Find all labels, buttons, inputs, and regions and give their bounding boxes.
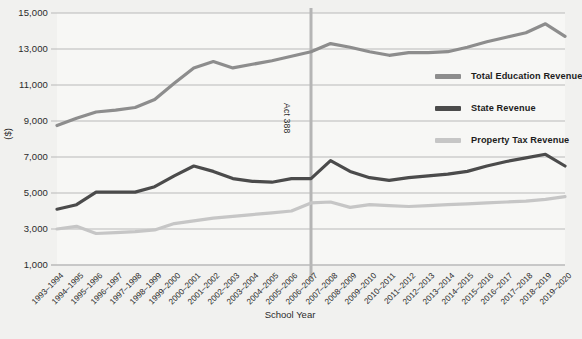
- y-axis-tick-label: 7,000: [2, 151, 48, 162]
- legend-label-property-tax-revenue: Property Tax Revenue: [471, 135, 569, 145]
- y-axis-tick-label: 1,000: [2, 259, 48, 270]
- legend-label-state-revenue: State Revenue: [471, 103, 536, 113]
- legend-swatch-state-revenue: [435, 106, 461, 111]
- legend-swatch-property-tax-revenue: [435, 138, 461, 143]
- y-axis-tick-label: 13,000: [2, 43, 48, 54]
- y-axis-title: ($): [2, 128, 13, 140]
- legend-swatch-total-education-revenue: [435, 74, 461, 79]
- chart-legend: Total Education Revenue State Revenue Pr…: [435, 60, 582, 156]
- y-axis-tick-label: 3,000: [2, 223, 48, 234]
- legend-item-state-revenue: State Revenue: [435, 92, 582, 124]
- act-388-annotation-label: Act 388: [282, 103, 292, 134]
- y-axis-tick-label: 9,000: [2, 115, 48, 126]
- legend-item-property-tax-revenue: Property Tax Revenue: [435, 124, 582, 156]
- y-axis-tick-label: 5,000: [2, 187, 48, 198]
- legend-item-total-education-revenue: Total Education Revenue: [435, 60, 582, 92]
- x-axis-title: School Year: [0, 309, 580, 320]
- legend-label-total-education-revenue: Total Education Revenue: [471, 71, 582, 81]
- y-axis-tick-label: 15,000: [2, 7, 48, 18]
- y-axis-tick-label: 11,000: [2, 79, 48, 90]
